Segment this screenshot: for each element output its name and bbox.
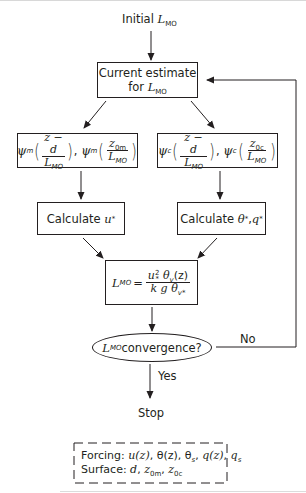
calculate-u-star-box: Calculate u* (37, 202, 125, 235)
branch-no-label: No (240, 332, 256, 346)
arrow-estimate-to-psi-c (191, 101, 214, 128)
bottom-edge-line (60, 491, 306, 492)
l-mo-var: L (157, 12, 165, 26)
arrow-estimate-to-psi-m (84, 101, 106, 128)
inputs-box: Forcing: u(z), θ(z), θs, q(z), qs Surfac… (73, 442, 228, 484)
fraction-z-minus-d-over-lmo: z − d LMO (180, 132, 207, 169)
formula-fraction: u2* θv(z) k g θv* (146, 270, 190, 295)
fraction-z0c-over-lmo: z0c LMO (245, 138, 268, 163)
fraction-z-minus-d-over-lmo: z − d LMO (42, 132, 65, 169)
arrow-calc-u-to-formula (83, 238, 103, 258)
calculate-theta-q-star-box: Calculate θ*, q* (177, 202, 266, 235)
start-label: Initial LMO (122, 12, 177, 26)
surface-line: Surface: d, z0m, z0c (81, 463, 241, 477)
inputs-text: Forcing: u(z), θ(z), θs, q(z), qs Surfac… (81, 449, 241, 477)
psi-scalar-box: ψc ( z − d LMO ), ψc ( z0c LMO ) (157, 133, 278, 168)
current-estimate-box: Current estimate for LMO (97, 62, 198, 98)
obukhov-length-formula-box: LMO = u2* θv(z) k g θv* (105, 260, 198, 305)
fraction-z0m-over-lmo: z0m LMO (106, 138, 129, 163)
convergence-decision: LMO convergence? (92, 333, 212, 362)
branch-yes-label: Yes (158, 369, 177, 383)
psi-momentum-box: ψm ( z − d LMO ), ψm ( z0m LMO ) (17, 133, 138, 168)
arrow-calc-theta-to-formula (198, 238, 217, 258)
stop-label: Stop (138, 406, 164, 420)
forcing-line: Forcing: u(z), θ(z), θs, q(z), qs (81, 449, 241, 463)
